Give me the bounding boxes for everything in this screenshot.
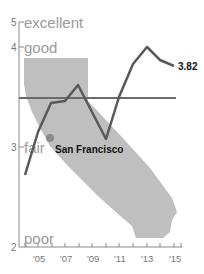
- x-tick-label-11: '11: [114, 253, 126, 264]
- x-tick-label-07: '07: [60, 253, 72, 264]
- san-francisco-dot: [46, 134, 54, 142]
- end-value-label: 3.82: [178, 61, 198, 72]
- y-tick-label-4: 4: [11, 42, 17, 53]
- san-francisco-label: San Francisco: [55, 144, 123, 155]
- x-tick-label-05: '05: [33, 253, 45, 264]
- quality-label-good: good: [24, 39, 57, 56]
- x-tick-label-15: '15: [169, 253, 181, 264]
- quality-label-poor: poor: [24, 230, 54, 247]
- chart: 5 4 3 2 excellent good fair poor '05 '07…: [0, 0, 204, 274]
- quality-label-excellent: excellent: [24, 14, 84, 31]
- y-tick-label-3: 3: [11, 142, 17, 153]
- x-tick-label-13: '13: [141, 253, 153, 264]
- y-tick-label-5: 5: [11, 17, 17, 28]
- x-tick-label-09: '09: [87, 253, 99, 264]
- y-tick-label-2: 2: [11, 242, 17, 253]
